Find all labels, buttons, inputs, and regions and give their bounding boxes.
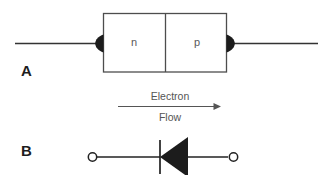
electron-flow-arrowhead	[214, 103, 222, 110]
right-contact	[227, 35, 235, 53]
electron-flow-label-bottom: Flow	[110, 111, 230, 123]
electron-flow-arrow-group	[118, 103, 221, 110]
panel-label-a: A	[21, 62, 32, 79]
panel-b-group	[88, 137, 237, 175]
diode-triangle	[160, 137, 188, 175]
left-terminal	[88, 153, 96, 161]
right-terminal	[229, 153, 237, 161]
electron-flow-label-top: Electron	[110, 90, 230, 102]
region-label-p: p	[187, 36, 207, 48]
region-label-n: n	[124, 36, 144, 48]
left-contact	[95, 35, 103, 53]
panel-label-b: B	[21, 142, 32, 159]
panel-a-group	[15, 14, 318, 73]
figure-svg	[0, 0, 329, 175]
figure-canvas: A B n p Electron Flow	[0, 0, 329, 175]
